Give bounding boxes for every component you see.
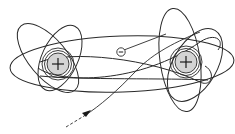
left-orbit-tilted-large [6, 14, 89, 103]
incoming-trajectory-dashed [66, 116, 84, 127]
electron-connector [124, 34, 166, 50]
left-nucleus [42, 48, 74, 80]
right-nucleus [170, 46, 202, 78]
electron [117, 48, 125, 56]
two-nucleus-electron-diagram: + + − [0, 0, 235, 134]
diagram-canvas [0, 0, 235, 134]
